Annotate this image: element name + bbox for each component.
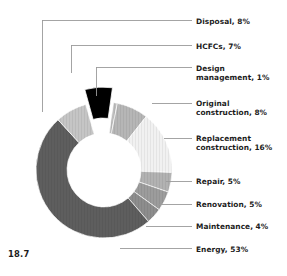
callout-label-replacement-construction[interactable]: Replacement construction, 16% <box>196 134 272 153</box>
callout-label-design-management[interactable]: Design management, 1% <box>196 64 269 83</box>
callout-label-hcfcs[interactable]: HCFCs, 7% <box>196 42 241 51</box>
donut-slice-texture <box>36 103 172 238</box>
callout-label-maintenance[interactable]: Maintenance, 4% <box>196 222 268 231</box>
callout-label-original-construction[interactable]: Original construction, 8% <box>196 99 267 118</box>
donut-slice-hcfcs[interactable] <box>85 87 113 119</box>
callout-label-renovation[interactable]: Renovation, 5% <box>196 200 262 209</box>
figure-container: Disposal, 8% HCFCs, 7% Design management… <box>0 0 287 276</box>
callout-label-repair[interactable]: Repair, 5% <box>196 177 241 186</box>
figure-number: 18.7 <box>8 249 29 259</box>
callout-label-energy[interactable]: Energy, 53% <box>196 245 248 254</box>
callout-label-disposal[interactable]: Disposal, 8% <box>196 17 250 26</box>
